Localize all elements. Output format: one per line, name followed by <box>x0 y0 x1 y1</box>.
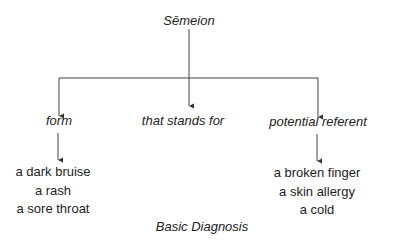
list-item: a broken finger <box>274 164 361 183</box>
list-item: a sore throat <box>15 200 90 219</box>
list-item: a dark bruise <box>15 163 90 182</box>
root-label: Sēmeion <box>163 13 214 29</box>
branch-label-referent: potential referent <box>269 114 367 130</box>
list-item: a skin allergy <box>274 183 361 202</box>
list-item: a rash <box>15 182 90 201</box>
referent-examples-list: a broken finger a skin allergy a cold <box>274 164 361 220</box>
branch-label-stands-for: that stands for <box>142 113 224 129</box>
list-item: a cold <box>274 201 361 220</box>
branch-label-form: form <box>46 113 72 129</box>
diagram-caption: Basic Diagnosis <box>156 219 249 235</box>
form-examples-list: a dark bruise a rash a sore throat <box>15 163 90 219</box>
